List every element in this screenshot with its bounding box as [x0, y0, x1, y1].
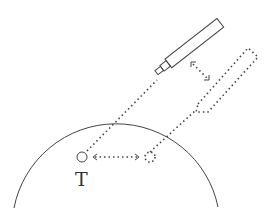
probe-original — [153, 18, 224, 77]
target-label: T — [75, 170, 88, 189]
target-displacement-arrow — [93, 154, 139, 160]
probe-displacement-arrow — [191, 62, 209, 80]
target-displaced — [145, 152, 155, 162]
beam-line-original — [87, 80, 157, 151]
body-surface-arc — [14, 124, 218, 208]
target-original — [77, 152, 87, 162]
diagram-canvas — [0, 0, 271, 219]
beam-line-displaced — [150, 110, 196, 152]
